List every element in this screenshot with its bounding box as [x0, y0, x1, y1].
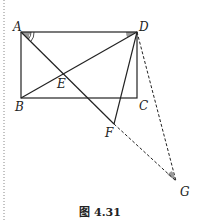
figure-canvas: A D B C E F G 图 4.31	[0, 0, 199, 221]
geometry-figure: A D B C E F G 图 4.31	[0, 0, 199, 221]
segment-DF	[114, 32, 137, 124]
label-C: C	[139, 99, 148, 113]
figure-caption: 图 4.31	[79, 206, 121, 219]
label-B: B	[14, 100, 24, 114]
label-G: G	[180, 185, 190, 199]
label-D: D	[138, 20, 149, 34]
segment-FG	[114, 124, 176, 181]
segment-BD	[21, 32, 137, 98]
label-F: F	[104, 126, 114, 140]
segment-AF	[21, 32, 114, 124]
label-E: E	[56, 77, 66, 91]
label-A: A	[12, 20, 22, 34]
